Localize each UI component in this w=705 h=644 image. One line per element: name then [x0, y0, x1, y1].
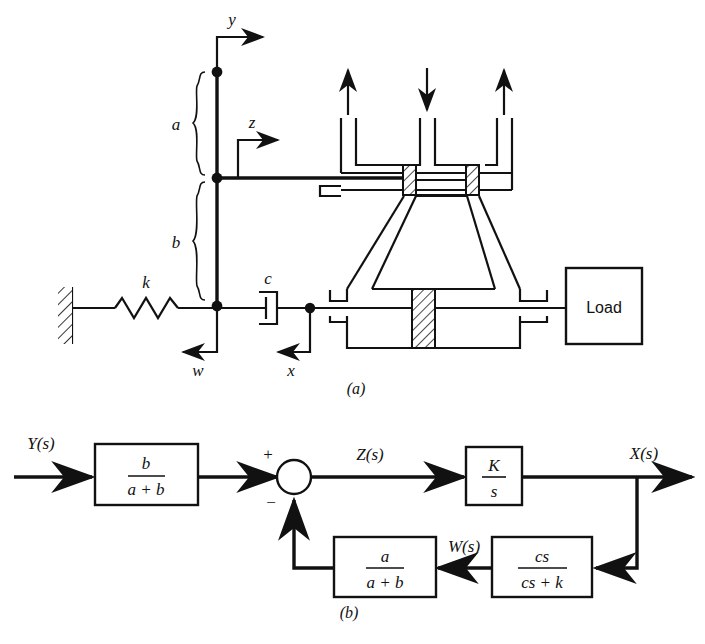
- damper-element: [217, 292, 310, 324]
- feedback-takeoff-wire: [596, 477, 637, 568]
- x-arrow-label: x: [286, 361, 295, 380]
- input-gain-denominator: a + b: [128, 480, 165, 499]
- dimension-label-b: b: [172, 233, 181, 252]
- input-gain-block: b a + b: [95, 444, 198, 505]
- z-displacement-arrow: [238, 140, 278, 178]
- power-cylinder: [310, 289, 566, 348]
- output-signal-label: X(s): [629, 444, 659, 463]
- integrator-numerator: K: [487, 456, 501, 475]
- input-signal-label: Y(s): [27, 434, 55, 453]
- summing-junction: [277, 460, 311, 494]
- panel-a-caption: (a): [347, 380, 366, 398]
- error-signal-label: Z(s): [356, 445, 384, 464]
- spring-label-k: k: [142, 273, 150, 292]
- damper-spring-lag-block: cs cs + k: [492, 537, 592, 597]
- spring-element: [72, 298, 217, 318]
- engineering-figure-svg: y z a b k: [0, 0, 705, 644]
- power-piston: [412, 289, 435, 348]
- w-displacement-arrow: [183, 308, 217, 352]
- y-arrow-label: y: [226, 10, 236, 29]
- feedback-return-wire: [294, 500, 334, 568]
- feedback-gain-numerator: a: [381, 547, 390, 566]
- feedback-signal-label: W(s): [448, 537, 480, 556]
- feedback-gain-denominator: a + b: [367, 573, 404, 592]
- feedback-gain-block: a a + b: [334, 537, 436, 597]
- dimension-label-a: a: [172, 115, 181, 134]
- connecting-pipes: [347, 196, 520, 289]
- spool-land-right: [466, 165, 479, 195]
- damper-label-c: c: [264, 269, 272, 288]
- spool-valve-body: [320, 118, 512, 196]
- z-arrow-label: z: [248, 113, 256, 132]
- load-block-label: Load: [586, 299, 622, 316]
- panel-b: Y(s) b a + b + − Z(s) K s X(s): [14, 434, 692, 622]
- figure-root: y z a b k: [0, 0, 705, 644]
- lag-numerator: cs: [535, 547, 550, 566]
- summing-minus-sign: −: [266, 493, 276, 512]
- panel-b-caption: (b): [340, 604, 359, 622]
- dimension-brace-a: [193, 72, 205, 175]
- x-displacement-arrow: [278, 308, 310, 352]
- summing-plus-sign: +: [263, 445, 273, 464]
- fixed-wall: [58, 287, 72, 344]
- integrator-denominator: s: [491, 482, 498, 501]
- input-gain-numerator: b: [142, 454, 151, 473]
- pivot-top: [212, 67, 223, 78]
- spool-land-left: [403, 165, 416, 195]
- w-arrow-label: w: [192, 361, 204, 380]
- lag-denominator: cs + k: [521, 573, 563, 592]
- dimension-brace-b: [193, 182, 205, 300]
- panel-a: y z a b k: [58, 10, 642, 398]
- integrator-block: K s: [466, 447, 522, 505]
- y-displacement-arrow: [217, 37, 263, 72]
